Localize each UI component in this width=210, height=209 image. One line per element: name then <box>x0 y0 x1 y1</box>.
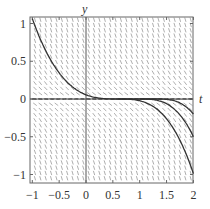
slope-mark <box>189 113 192 117</box>
slope-mark <box>168 55 170 59</box>
slope-mark <box>34 118 36 122</box>
slope-mark <box>158 145 160 149</box>
slope-mark <box>158 155 159 159</box>
slope-mark <box>44 87 47 90</box>
slope-mark <box>152 160 153 164</box>
slope-mark <box>141 134 143 138</box>
slope-mark <box>93 33 94 37</box>
y-tick-label: 1 <box>20 17 26 31</box>
slope-mark <box>152 87 155 90</box>
slope-mark <box>190 124 192 128</box>
slope-mark <box>82 65 84 69</box>
slope-mark <box>45 155 46 159</box>
slope-mark <box>136 49 138 53</box>
slope-mark <box>72 44 74 48</box>
slope-mark <box>83 150 85 154</box>
slope-mark <box>179 160 180 164</box>
slope-mark <box>185 155 186 159</box>
slope-mark <box>34 139 36 143</box>
slope-mark <box>77 176 78 180</box>
slope-mark <box>93 18 94 22</box>
slope-mark <box>104 76 106 80</box>
slope-mark <box>50 124 52 128</box>
slope-mark <box>184 129 186 133</box>
slope-mark <box>109 113 112 117</box>
slope-mark <box>152 23 153 27</box>
slope-mark <box>114 103 118 106</box>
slope-mark <box>34 166 35 170</box>
slope-mark <box>88 39 89 43</box>
slope-mark <box>125 87 128 90</box>
slope-mark <box>126 28 127 32</box>
slope-mark <box>93 118 95 122</box>
slope-mark <box>104 160 105 164</box>
slope-mark <box>104 60 106 64</box>
slope-mark <box>108 92 112 95</box>
slope-mark <box>142 171 143 175</box>
slope-mark <box>50 39 51 43</box>
slope-mark <box>103 87 106 90</box>
slope-mark <box>72 49 74 53</box>
slope-mark <box>39 139 41 143</box>
slope-mark <box>126 23 127 27</box>
slope-mark <box>45 160 46 164</box>
slope-mark <box>77 171 78 175</box>
slope-mark <box>163 23 164 27</box>
slope-mark <box>168 155 169 159</box>
slope-mark <box>168 134 170 138</box>
slope-mark <box>184 108 187 111</box>
slope-mark <box>146 87 149 90</box>
slope-mark <box>88 129 90 133</box>
slope-mark <box>61 60 63 64</box>
x-axis-label: t <box>199 92 203 106</box>
slope-mark <box>72 171 73 175</box>
slope-mark <box>126 39 127 43</box>
slope-mark <box>39 108 42 111</box>
slope-mark <box>126 160 127 164</box>
slope-mark <box>66 139 68 143</box>
slope-mark <box>147 65 149 69</box>
slope-mark <box>131 49 133 53</box>
slope-mark <box>179 150 181 154</box>
slope-mark <box>82 139 84 143</box>
slope-mark <box>185 23 186 27</box>
x-tick-label: 1.5 <box>159 188 174 202</box>
slope-mark <box>56 49 58 53</box>
slope-mark <box>136 39 137 43</box>
slope-mark <box>45 124 47 128</box>
slope-mark <box>104 134 106 138</box>
slope-mark <box>146 92 150 95</box>
slope-mark <box>109 118 111 122</box>
slope-mark <box>61 166 62 170</box>
slope-mark <box>174 49 176 53</box>
slope-mark <box>158 28 159 32</box>
slope-mark <box>99 23 100 27</box>
slope-mark <box>50 65 52 69</box>
slope-mark <box>76 108 79 111</box>
slope-mark <box>126 171 127 175</box>
slope-mark <box>82 108 85 111</box>
slope-mark <box>39 118 41 122</box>
slope-mark <box>34 171 35 175</box>
slope-mark <box>99 145 101 149</box>
slope-mark <box>87 87 90 90</box>
slope-mark <box>190 39 191 43</box>
slope-mark <box>45 150 47 154</box>
slope-mark <box>163 134 165 138</box>
slope-mark <box>168 71 170 75</box>
slope-mark <box>157 103 161 106</box>
slope-mark <box>115 139 117 143</box>
slope-mark <box>50 113 53 117</box>
slope-mark <box>77 145 79 149</box>
slope-mark <box>126 166 127 170</box>
slope-mark <box>120 118 122 122</box>
slope-mark <box>174 65 176 69</box>
slope-mark <box>45 129 47 133</box>
slope-mark <box>184 113 187 117</box>
slope-mark <box>189 87 192 90</box>
slope-mark <box>185 33 186 37</box>
slope-mark <box>146 108 149 111</box>
slope-mark <box>185 145 187 149</box>
slope-mark <box>82 71 84 75</box>
slope-mark <box>136 118 138 122</box>
